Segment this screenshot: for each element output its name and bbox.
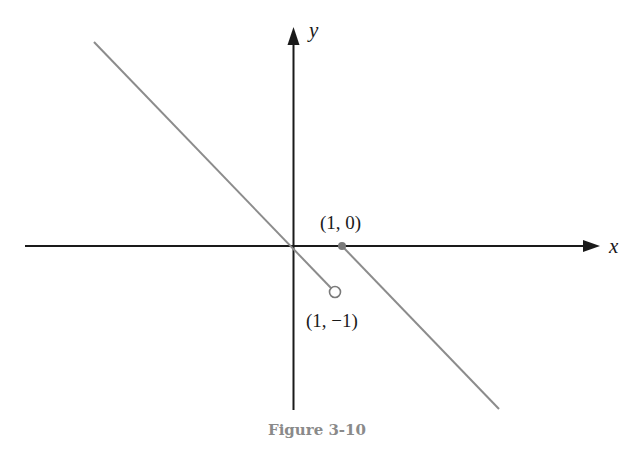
graph-right-piece [342, 246, 499, 409]
open-point-icon [330, 287, 341, 298]
filled-point-icon [338, 242, 346, 250]
x-axis-label: x [608, 234, 619, 258]
graph-left-piece [94, 42, 331, 288]
x-axis-arrow-icon [583, 240, 600, 252]
figure-caption: Figure 3-10 [0, 421, 634, 439]
point-label-1-neg1: (1, −1) [306, 310, 358, 332]
piecewise-graph: y x (1, 0) (1, −1) [0, 0, 634, 457]
point-label-1-0: (1, 0) [320, 212, 361, 234]
y-axis-arrow-icon [288, 27, 300, 45]
y-axis-label: y [307, 18, 319, 42]
